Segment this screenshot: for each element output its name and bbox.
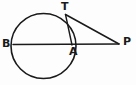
point-label-p: P xyxy=(123,36,131,47)
circle-shape xyxy=(11,14,76,79)
point-label-b: B xyxy=(2,38,10,49)
tangent-line-TP xyxy=(66,15,120,45)
point-label-t: T xyxy=(61,1,69,12)
point-label-a: A xyxy=(69,46,78,57)
geometry-figure: B T A P xyxy=(0,0,136,85)
secant-line-BP xyxy=(13,44,119,45)
